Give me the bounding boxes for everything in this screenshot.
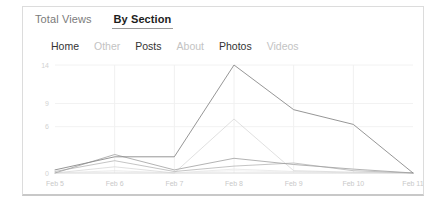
x-axis-tick-label: Feb 11 — [402, 180, 423, 187]
x-axis-tick-label: Feb 7 — [165, 180, 183, 187]
legend-item-posts[interactable]: Posts — [135, 40, 161, 52]
x-axis-tick-label: Feb 5 — [46, 180, 64, 187]
legend-item-home[interactable]: Home — [51, 40, 79, 52]
x-axis-tick-label: Feb 8 — [225, 180, 243, 187]
x-axis-tick-label: Feb 6 — [106, 180, 124, 187]
x-axis-tick-label: Feb 9 — [285, 180, 303, 187]
x-axis-tick-label: Feb 10 — [342, 180, 364, 187]
chart-canvas: 06914Feb 5Feb 6Feb 7Feb 8Feb 9Feb 10Feb … — [23, 55, 424, 195]
legend-item-about[interactable]: About — [177, 40, 204, 52]
legend-item-other[interactable]: Other — [94, 40, 120, 52]
line-chart: 06914Feb 5Feb 6Feb 7Feb 8Feb 9Feb 10Feb … — [23, 55, 424, 195]
y-axis-tick-label: 0 — [45, 170, 49, 177]
y-axis-tick-label: 14 — [41, 62, 49, 69]
tab-total-views[interactable]: Total Views — [33, 13, 94, 28]
legend-item-videos[interactable]: Videos — [267, 40, 299, 52]
y-axis-tick-label: 6 — [45, 123, 49, 130]
tab-by-section[interactable]: By Section — [112, 13, 174, 28]
chart-tabbar: Total Views By Section — [23, 7, 423, 33]
legend-item-photos[interactable]: Photos — [219, 40, 252, 52]
section-legend: Home Other Posts About Photos Videos — [23, 37, 423, 55]
y-axis-tick-label: 9 — [45, 100, 49, 107]
by-section-card: Total Views By Section Home Other Posts … — [22, 6, 424, 196]
